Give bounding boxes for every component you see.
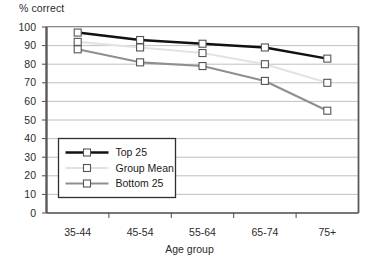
data-point-marker bbox=[74, 46, 81, 53]
data-point-marker bbox=[324, 79, 331, 86]
x-axis-tick-marks bbox=[109, 213, 296, 218]
data-point-marker bbox=[137, 37, 144, 44]
data-point-marker bbox=[137, 44, 144, 51]
legend-entry-label: Top 25 bbox=[116, 147, 148, 158]
chart-container: % correct Age group 01020304050607080901… bbox=[0, 0, 379, 266]
data-point-marker bbox=[324, 55, 331, 62]
legend-marker bbox=[84, 180, 91, 187]
data-point-marker bbox=[261, 77, 268, 84]
data-point-marker bbox=[137, 59, 144, 66]
data-point-marker bbox=[74, 29, 81, 36]
data-point-marker bbox=[74, 38, 81, 45]
legend-entry-label: Bottom 25 bbox=[116, 178, 164, 189]
data-point-marker bbox=[324, 107, 331, 114]
legend-marker bbox=[84, 149, 91, 156]
data-point-marker bbox=[199, 50, 206, 57]
data-point-marker bbox=[199, 63, 206, 70]
legend-entry-label: Group Mean bbox=[116, 163, 174, 174]
data-point-marker bbox=[261, 61, 268, 68]
data-point-marker bbox=[261, 44, 268, 51]
legend-marker bbox=[84, 165, 91, 172]
data-point-marker bbox=[199, 40, 206, 47]
plot-area bbox=[0, 0, 379, 266]
